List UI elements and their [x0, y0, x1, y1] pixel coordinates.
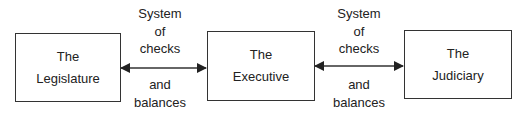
edge-label-2-balances: balances: [314, 95, 404, 110]
node-judiciary-line2: Judiciary: [432, 65, 483, 87]
edge-label-2-of: of: [314, 24, 404, 39]
node-judiciary-line1: The: [447, 43, 469, 65]
edge-label-1: System of checks and balances: [115, 0, 205, 116]
edge-label-1-of: of: [115, 24, 205, 39]
edge-label-2: System of checks and balances: [314, 0, 404, 116]
edge-label-2-checks: checks: [314, 41, 404, 56]
edge-label-2-system: System: [314, 6, 404, 21]
node-legislature-line2: Legislature: [36, 68, 100, 90]
node-legislature-line1: The: [57, 46, 79, 68]
edge-label-2-and: and: [314, 77, 404, 92]
node-legislature: The Legislature: [15, 33, 121, 102]
node-judiciary: The Judiciary: [404, 30, 512, 99]
node-executive-line1: The: [250, 44, 272, 66]
edge-label-1-checks: checks: [115, 41, 205, 56]
edge-label-1-and: and: [115, 77, 205, 92]
edge-label-1-system: System: [115, 6, 205, 21]
edge-label-1-balances: balances: [115, 95, 205, 110]
node-executive-line2: Executive: [233, 66, 289, 88]
node-executive: The Executive: [207, 31, 315, 101]
